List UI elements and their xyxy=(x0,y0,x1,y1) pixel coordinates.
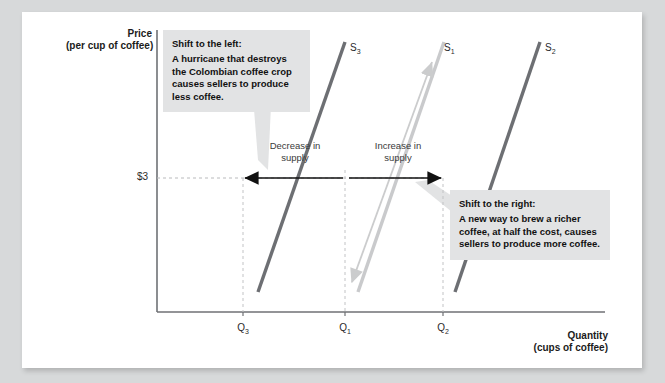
decrease-in-supply-label: Decrease in supply xyxy=(252,140,338,164)
y-axis-title: Price (per cup of coffee) xyxy=(66,28,152,52)
curve-label-s3-base: S xyxy=(350,42,357,53)
callout-shift-right-body: A new way to brew a richer coffee, at ha… xyxy=(459,213,601,251)
q2-tick-sub: 2 xyxy=(445,328,449,335)
shift-direction-arrow xyxy=(352,62,432,282)
increase-in-supply-line2: supply xyxy=(355,152,441,164)
price-tick-label: $3 xyxy=(112,171,148,182)
x-axis-title-main: Quantity xyxy=(478,330,608,342)
q1-tick-base: Q xyxy=(339,322,347,333)
increase-in-supply-line1: Increase in xyxy=(355,140,441,152)
curve-label-s3: S3 xyxy=(350,42,361,55)
q2-tick-base: Q xyxy=(437,322,445,333)
supply-curve-s1 xyxy=(358,42,444,292)
curve-label-s1-sub: 1 xyxy=(451,48,455,55)
callout-shift-left: Shift to the left: A hurricane that dest… xyxy=(163,30,310,112)
q3-tick-label: Q3 xyxy=(228,322,258,335)
curve-label-s2-sub: 2 xyxy=(552,48,556,55)
q2-tick-label: Q2 xyxy=(428,322,458,335)
figure-page: Price (per cup of coffee) Quantity (cups… xyxy=(0,0,665,383)
y-axis-title-sub: (per cup of coffee) xyxy=(66,40,152,52)
callout-shift-left-title: Shift to the left: xyxy=(172,37,301,50)
q1-tick-label: Q1 xyxy=(330,322,360,335)
callout-shift-left-body: A hurricane that destroys the Colombian … xyxy=(172,53,301,103)
callout-right-pointer xyxy=(415,180,452,212)
q3-tick-base: Q xyxy=(237,322,245,333)
x-axis-title-sub: (cups of coffee) xyxy=(478,342,608,354)
q1-tick-sub: 1 xyxy=(347,328,351,335)
curve-label-s1-base: S xyxy=(444,42,451,53)
increase-in-supply-label: Increase in supply xyxy=(355,140,441,164)
curve-label-s2: S2 xyxy=(545,42,556,55)
curve-label-s3-sub: 3 xyxy=(357,48,361,55)
curve-label-s1: S1 xyxy=(444,42,455,55)
callout-shift-right: Shift to the right: A new way to brew a … xyxy=(450,190,610,260)
callout-shift-right-title: Shift to the right: xyxy=(459,197,601,210)
x-axis-title: Quantity (cups of coffee) xyxy=(478,330,608,354)
curve-label-s2-base: S xyxy=(545,42,552,53)
q3-tick-sub: 3 xyxy=(245,328,249,335)
decrease-in-supply-line2: supply xyxy=(252,152,338,164)
decrease-in-supply-line1: Decrease in xyxy=(252,140,338,152)
y-axis-title-main: Price xyxy=(66,28,152,40)
